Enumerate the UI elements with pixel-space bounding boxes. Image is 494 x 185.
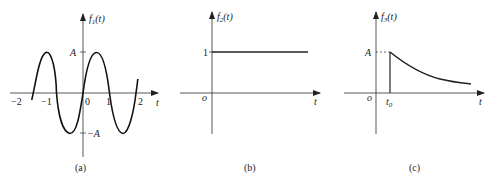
panel-c: A o t0 t f3(t) (c) bbox=[344, 11, 484, 174]
ytick-A: A bbox=[364, 47, 372, 58]
caption-b: (b) bbox=[244, 162, 256, 174]
panel-a: −2 −1 0 1 2 t A −A f1(t) (a) bbox=[10, 13, 159, 174]
xtick-neg1: −1 bbox=[41, 96, 52, 107]
xtick-neg2: −2 bbox=[11, 96, 22, 107]
origin-label: o bbox=[202, 92, 207, 103]
caption-a: (a) bbox=[75, 162, 86, 174]
caption-c: (c) bbox=[409, 162, 420, 174]
x-label-t: t bbox=[314, 96, 317, 107]
signals-figure: −2 −1 0 1 2 t A −A f1(t) (a) 1 o t f2(t)… bbox=[0, 0, 494, 185]
exponential-decay-curve bbox=[390, 52, 471, 84]
xtick-1: 1 bbox=[106, 96, 111, 107]
ytick-1: 1 bbox=[203, 47, 208, 58]
x-label-t: t bbox=[479, 96, 482, 107]
y-label-f3: f3(t) bbox=[381, 11, 397, 24]
ytick-A: A bbox=[69, 47, 77, 58]
xtick-2: 2 bbox=[138, 96, 143, 107]
xtick-t0: t0 bbox=[386, 96, 393, 109]
panel-b: 1 o t f2(t) (b) bbox=[180, 11, 320, 174]
origin-label: o bbox=[367, 92, 372, 103]
y-label-f1: f1(t) bbox=[89, 13, 105, 26]
y-label-f2: f2(t) bbox=[217, 11, 233, 24]
xtick-0: 0 bbox=[85, 96, 90, 107]
x-label-t: t bbox=[156, 97, 159, 108]
ytick-neg-A: −A bbox=[87, 128, 101, 139]
